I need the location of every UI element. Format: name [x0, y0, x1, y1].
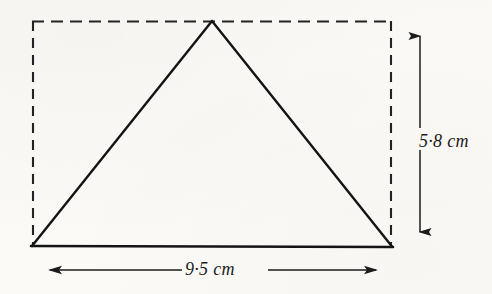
geometry-figure: 5·8 cm 9·5 cm [0, 0, 492, 294]
height-dimension-label: 5·8 cm [419, 132, 469, 150]
triangle-base [31, 246, 393, 247]
width-dimension-label: 9·5 cm [185, 260, 235, 278]
triangle-outline [31, 21, 393, 247]
dashed-bounding-rectangle [32, 21, 392, 246]
triangle-left-side [32, 21, 212, 246]
triangle-right-side [212, 21, 392, 247]
